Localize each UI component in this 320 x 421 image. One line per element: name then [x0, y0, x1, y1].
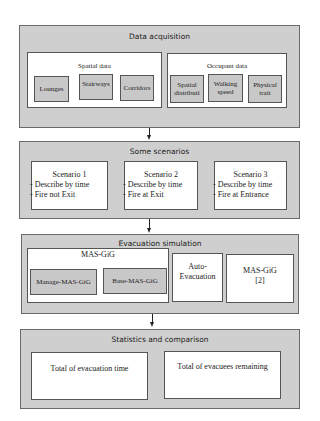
- total-evacuees-remaining-box: Total of evacuees remaining: [164, 351, 281, 399]
- scenario-3-box: Scenario 3 Describe by time Fire at Entr…: [214, 161, 287, 210]
- corridors-box: Corridors: [120, 75, 154, 101]
- total-evacuation-time-box: Total of evacuation time: [31, 352, 148, 400]
- scenario-3-line-2: Fire at Entrance: [215, 190, 286, 200]
- scenario-3-title: Scenario 3: [215, 170, 286, 180]
- occupant-data-title: Occupant data: [168, 62, 286, 70]
- spatial-distribution-box: Spatial distributi: [170, 75, 204, 103]
- lounges-box: Lounges: [34, 76, 69, 102]
- scenario-1-line-1: Describe by time: [32, 180, 107, 190]
- physical-trait-box: Physical trait: [248, 75, 282, 103]
- stairways-box: Stairways: [79, 74, 113, 100]
- base-mas-gig-box: Base-MAS-GiG: [103, 268, 167, 294]
- arrow-3-line: [152, 314, 153, 322]
- arrow-1-head: [147, 135, 151, 140]
- scenarios-title: Some scenarios: [20, 147, 299, 156]
- statistics-title: Statistics and comparison: [21, 335, 299, 344]
- scenario-1-line-2: Fire not Exit: [32, 190, 107, 200]
- scenario-2-box: Scenario 2 Describe by time Fire at Exit: [124, 161, 198, 210]
- mas-gig-ref-box: MAS-GiG [2]: [226, 254, 294, 303]
- scenario-2-line-1: Describe by time: [125, 180, 197, 190]
- scenario-3-line-1: Describe by time: [215, 180, 286, 190]
- auto-evacuation-box: Auto- Evacuation: [172, 253, 223, 302]
- data-acquisition-title: Data acquisition: [20, 32, 299, 41]
- arrow-3-head: [150, 322, 154, 327]
- scenario-1-box: Scenario 1 Describe by time Fire not Exi…: [31, 161, 108, 210]
- walking-speed-box: Walking speed: [208, 74, 243, 102]
- evacuation-simulation-title: Evacuation simulation: [22, 239, 298, 248]
- scenario-2-line-2: Fire at Exit: [125, 190, 197, 200]
- spatial-data-title: Spatial data: [28, 62, 161, 70]
- mas-gig-title: MAS-GiG: [28, 250, 168, 259]
- manage-mas-gig-box: Manage-MAS-GiG: [30, 269, 97, 295]
- scenario-2-title: Scenario 2: [125, 170, 197, 180]
- arrow-2-head: [147, 228, 151, 233]
- arrow-2-line: [149, 219, 150, 228]
- scenario-1-title: Scenario 1: [32, 170, 107, 180]
